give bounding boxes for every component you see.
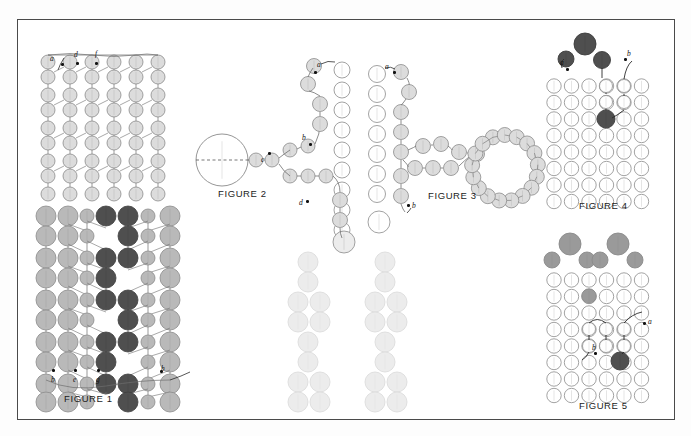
figure-2-marker-b [309,143,312,146]
figure-5-caption: FIGURE 5 [579,400,628,411]
figure-1-marker-a [61,63,64,66]
thread [142,166,152,171]
figure-1-label-e: e [73,375,76,384]
figure-1-label-b: b [51,375,55,384]
figure-5-marker-b [594,352,597,355]
figure-5-marker-a [643,322,646,325]
figure-3 [363,50,533,390]
leader [448,146,452,150]
thread [76,100,86,105]
figure-4-caption: FIGURE 4 [579,200,628,211]
figure-4-marker-b [624,58,627,61]
thread [120,67,130,72]
figure-5-label-b: b [592,343,596,352]
leader [407,78,409,85]
figure-1-marker-b [52,369,55,372]
figure-1-caption: FIGURE 1 [64,393,113,404]
thread [98,100,108,105]
leader [297,147,301,149]
leader [407,208,411,213]
figure-1-marker-h [160,370,163,373]
leader [309,91,320,96]
figure-5-label-a: a [648,317,652,326]
thread [76,166,86,171]
figure-1-marker-d [76,62,79,65]
leader [401,99,406,105]
figure-3-label-b: b [412,201,416,210]
figure-2 [198,50,358,390]
thread [54,100,64,105]
leader [624,61,632,79]
thread [76,133,86,138]
thread [98,133,108,138]
figure-1-marker-f [95,62,98,65]
figure-4 [540,28,670,203]
figure-2-label-c: c [261,155,264,164]
figure-1-marker-g [97,369,100,372]
figure-4-marker-a [566,68,569,71]
figure-3-graphic [363,50,533,390]
leader [408,146,416,150]
figure-3-label-a: a [385,62,389,71]
figure-2-label-a: a [317,60,321,69]
figure-1-label-f: f [95,49,97,58]
figure-1-graphic [30,50,190,390]
figure-4-label-b: b [627,49,631,58]
thread [98,166,108,171]
figure-1-label-g: g [96,375,100,384]
figure-4-label-a: a [560,58,564,67]
figure-5-graphic [540,228,670,393]
figure-3-marker-b [407,204,410,207]
thread [120,133,130,138]
figure-sheet: a d f b e g h FIGURE 1 a b c d FIGURE 2 … [0,0,691,436]
thread [120,100,130,105]
figure-1-label-d: d [74,50,78,59]
leader [401,204,405,212]
figure-1-label-a: a [50,54,54,63]
figure-2-marker-d [306,200,309,203]
figure-4-graphic [540,28,670,203]
figure-2-caption: FIGURE 2 [218,188,267,199]
figure-2-label-d: d [299,198,303,207]
figure-2-graphic [198,50,358,390]
figure-5 [540,228,670,393]
thread [54,166,64,171]
thread [142,100,152,105]
thread [142,133,152,138]
figure-3-marker-a [393,71,396,74]
figure-2-marker-c [268,152,271,155]
thread [76,67,86,72]
thread [54,133,64,138]
figure-3-caption: FIGURE 3 [428,190,477,201]
leader [321,61,335,64]
figure-2-label-b: b [302,133,306,142]
thread [142,67,152,72]
thread [120,166,130,171]
figure-1-marker-e [74,369,77,372]
thread [98,67,108,72]
figure-2-marker-a [314,71,317,74]
figure-1 [30,50,190,390]
